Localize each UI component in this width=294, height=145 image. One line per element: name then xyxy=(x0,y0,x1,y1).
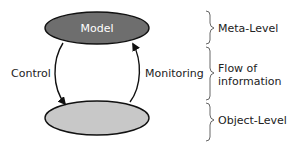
flow-label-line2: information xyxy=(218,75,282,88)
monitoring-arrow xyxy=(130,44,139,102)
monitoring-label: Monitoring xyxy=(145,67,204,80)
flow-brace xyxy=(206,47,214,100)
object-level-label: Object-Level xyxy=(218,114,287,127)
meta-level-brace xyxy=(206,11,214,44)
meta-level-node: Model xyxy=(45,12,149,44)
meta-level-label: Meta-Level xyxy=(218,22,278,35)
object-level-node xyxy=(45,101,149,135)
control-label: Control xyxy=(11,67,51,80)
object-level-brace xyxy=(206,103,214,141)
flow-label-line1: Flow of xyxy=(218,62,258,75)
control-arrow xyxy=(55,43,65,104)
model-label: Model xyxy=(80,22,113,35)
meta-object-diagram: Model Control Monitoring Meta-Level Flow… xyxy=(0,0,294,145)
object-level-ellipse xyxy=(45,101,149,135)
